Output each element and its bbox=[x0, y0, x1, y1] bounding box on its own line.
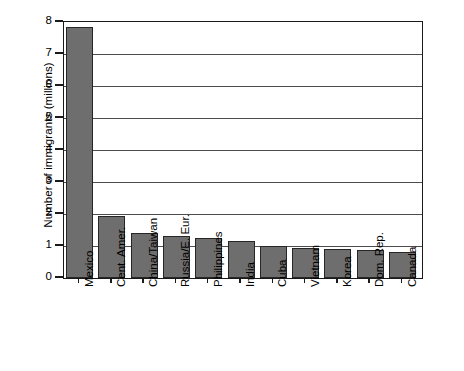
bar bbox=[66, 27, 93, 278]
x-axis-label: Korea bbox=[342, 256, 354, 287]
y-axis-title: Number of immigrants (millions) bbox=[42, 13, 54, 277]
x-axis-label: India bbox=[245, 262, 257, 287]
x-tick-mark bbox=[239, 278, 241, 283]
x-tick-mark bbox=[110, 278, 112, 283]
y-tick-mark bbox=[55, 116, 63, 118]
y-tick-mark bbox=[55, 180, 63, 182]
x-tick-mark bbox=[142, 278, 144, 283]
x-tick-mark bbox=[336, 278, 338, 283]
x-axis-label: Russia/E. Eur. bbox=[180, 214, 192, 287]
x-tick-mark bbox=[368, 278, 370, 283]
bar-chart: Number of immigrants (millions) 01234567… bbox=[0, 0, 464, 371]
x-tick-mark bbox=[207, 278, 209, 283]
x-tick-mark bbox=[304, 278, 306, 283]
x-axis-label: Vietnam bbox=[310, 245, 322, 287]
y-tick-mark bbox=[55, 148, 63, 150]
x-axis-label: Cent. Amer. bbox=[116, 227, 128, 287]
x-axis-label: Cuba bbox=[277, 260, 289, 288]
y-tick-mark bbox=[55, 244, 63, 246]
y-tick-mark bbox=[55, 52, 63, 54]
x-axis-label: Dom. Rep. bbox=[374, 232, 386, 287]
y-tick-mark bbox=[55, 20, 63, 22]
y-tick-mark bbox=[55, 212, 63, 214]
x-axis-label: Canada bbox=[407, 247, 419, 287]
x-tick-mark bbox=[78, 278, 80, 283]
x-tick-mark bbox=[272, 278, 274, 283]
x-tick-mark bbox=[175, 278, 177, 283]
x-axis-label: China/Taiwan bbox=[148, 218, 160, 287]
y-tick-mark bbox=[55, 84, 63, 86]
x-axis-label: Philippines bbox=[213, 231, 225, 287]
y-tick-mark bbox=[55, 276, 63, 278]
x-axis-label: Mexico bbox=[84, 251, 96, 287]
x-tick-mark bbox=[401, 278, 403, 283]
